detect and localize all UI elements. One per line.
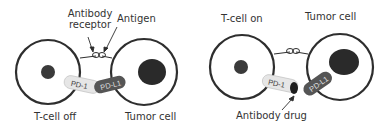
- receptor-antigen-bridge: [274, 49, 308, 55]
- arrows: [88, 27, 117, 52]
- drug-arrow: [282, 96, 294, 110]
- tumor-cell-label-left: Tumor cell: [125, 111, 176, 122]
- tcell-nucleus: [41, 65, 55, 79]
- tcell-off-label: T-cell off: [34, 111, 76, 122]
- right-panel: PD-1 PD-L1: [210, 34, 373, 110]
- tumor-cell-label-right: Tumor cell: [305, 11, 356, 22]
- antibody-receptor-label: Antibody receptor: [64, 8, 116, 30]
- tumor-nucleus: [329, 49, 359, 75]
- antigen-label: Antigen: [117, 13, 156, 24]
- antibody-receptor-line1: Antibody: [64, 8, 116, 19]
- antibody-receptor-line2: receptor: [64, 19, 116, 30]
- tcell-on-label: T-cell on: [221, 13, 263, 24]
- left-panel: PD-1 PD-L1: [16, 27, 177, 105]
- pdl1-molecule: PD-L1: [301, 69, 335, 98]
- pdl1-molecule: PD-L1: [93, 74, 127, 94]
- antibody-drug-label: Antibody drug: [236, 110, 307, 121]
- tcell-nucleus: [234, 60, 248, 74]
- antibody-drug: [290, 82, 298, 94]
- tumor-nucleus: [138, 59, 166, 85]
- receptor-antigen-bridge: [80, 53, 112, 59]
